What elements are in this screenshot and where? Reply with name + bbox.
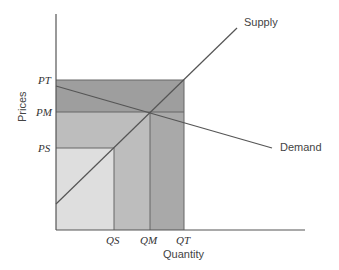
- supply-demand-diagram: PT PM PS QS QM QT Quantity Prices Supply…: [0, 0, 339, 270]
- quantity-label-qm: QM: [140, 234, 158, 246]
- region-ps-rectangle: [56, 148, 114, 230]
- quantity-label-qt: QT: [176, 234, 191, 246]
- y-axis-title: Prices: [16, 91, 28, 122]
- demand-label: Demand: [280, 141, 322, 153]
- supply-label: Supply: [244, 16, 278, 28]
- region-qm-qt-band: [150, 112, 184, 230]
- quantity-label-qs: QS: [106, 234, 120, 246]
- price-label-pt: PT: [37, 74, 52, 86]
- price-label-ps: PS: [37, 142, 51, 154]
- price-label-pm: PM: [35, 106, 53, 118]
- x-axis-title: Quantity: [163, 248, 204, 260]
